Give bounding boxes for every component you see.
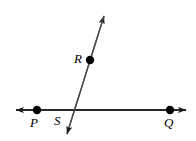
point-label-s: S — [54, 114, 61, 127]
line-diagonal-through-r-down-arrow — [67, 16, 104, 134]
point-label-p: P — [30, 116, 38, 129]
point-r-dot — [86, 56, 94, 64]
point-label-q: Q — [164, 116, 173, 129]
point-q-dot — [166, 106, 174, 114]
point-label-r: R — [74, 52, 82, 65]
geometry-figure: P S Q R — [0, 0, 196, 141]
point-p-dot — [33, 106, 41, 114]
